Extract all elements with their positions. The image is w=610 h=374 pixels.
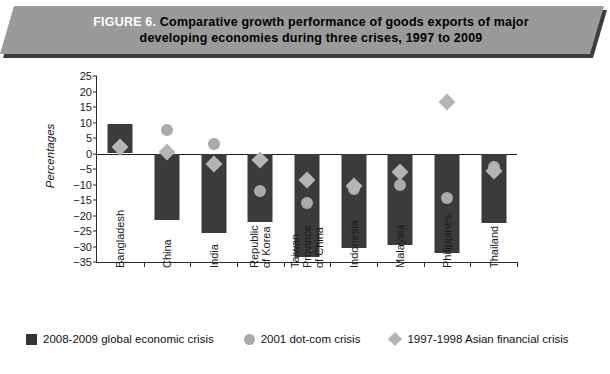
chart-legend: 2008-2009 global economic crisis 2001 do… — [26, 333, 596, 345]
marker-1997-1998-asian-crisis — [438, 94, 455, 111]
x-tick-mark — [517, 262, 518, 267]
legend-item-2: 1997-1998 Asian financial crisis — [390, 333, 568, 345]
legend-label-2: 1997-1998 Asian financial crisis — [407, 333, 568, 345]
y-tick-label: 15 — [80, 101, 92, 113]
marker-2001-dotcom-crisis — [208, 138, 220, 150]
y-tick-label: −35 — [73, 256, 92, 268]
figure-title-banner: FIGURE 6. Comparative growth performance… — [0, 6, 610, 58]
x-axis-category-label: Philippines — [441, 215, 453, 268]
chart-category-column: China — [144, 76, 191, 262]
bar-2008-2009-crisis — [154, 154, 179, 221]
x-tick-mark — [237, 262, 238, 267]
x-tick-mark — [424, 262, 425, 267]
x-tick-mark — [284, 262, 285, 267]
x-tick-mark — [330, 262, 331, 267]
y-tick-label: 25 — [80, 70, 92, 82]
legend-label-0: 2008-2009 global economic crisis — [43, 333, 214, 345]
chart-category-column: Bangladesh — [97, 76, 144, 262]
y-tick-label: −25 — [73, 225, 92, 237]
legend-circle-icon — [244, 334, 255, 345]
x-axis-category-label: Republic of Korea — [248, 225, 272, 268]
banner-text: FIGURE 6. Comparative growth performance… — [93, 14, 529, 46]
y-tick-label: 5 — [86, 132, 92, 144]
y-tick-label: 0 — [86, 148, 92, 160]
x-axis-category-label: Thailand — [488, 226, 500, 268]
chart-category-column: India — [190, 76, 237, 262]
marker-2001-dotcom-crisis — [441, 192, 453, 204]
legend-square-icon — [26, 334, 37, 345]
y-tick-label: −5 — [79, 163, 92, 175]
x-tick-mark — [190, 262, 191, 267]
x-axis-category-label: Malaysia — [394, 225, 406, 268]
banner-text-container: FIGURE 6. Comparative growth performance… — [0, 6, 604, 54]
legend-item-0: 2008-2009 global economic crisis — [26, 333, 214, 345]
marker-2001-dotcom-crisis — [161, 124, 173, 136]
legend-item-1: 2001 dot-com crisis — [244, 333, 361, 345]
x-tick-mark — [470, 262, 471, 267]
x-axis-category-label: Indonesia — [348, 220, 360, 268]
x-axis-category-label: Taiwan Province of China — [289, 225, 325, 268]
legend-label-1: 2001 dot-com crisis — [261, 333, 361, 345]
chart-category-column: Indonesia — [330, 76, 377, 262]
chart-category-column: Taiwan Province of China — [284, 76, 331, 262]
x-axis-category-label: Bangladesh — [114, 210, 126, 268]
figure-title-line1: Comparative growth performance of goods … — [160, 15, 529, 29]
chart-category-column: Republic of Korea — [237, 76, 284, 262]
marker-2001-dotcom-crisis — [254, 185, 266, 197]
chart-category-column: Thailand — [470, 76, 517, 262]
marker-2001-dotcom-crisis — [394, 179, 406, 191]
y-tick-label: −20 — [73, 210, 92, 222]
y-tick-label: 10 — [80, 117, 92, 129]
x-axis-category-label: China — [161, 239, 173, 268]
y-axis-label: Percentages — [44, 124, 56, 189]
chart-container: Percentages 2520151050−5−10−15−20−25−30−… — [0, 60, 610, 374]
chart-category-column: Philippines — [424, 76, 471, 262]
y-tick-label: −10 — [73, 179, 92, 191]
chart-category-column: Malaysia — [377, 76, 424, 262]
plot-area: 2520151050−5−10−15−20−25−30−35 Banglades… — [96, 76, 517, 263]
y-tick-label: −15 — [73, 194, 92, 206]
x-tick-mark — [144, 262, 145, 267]
figure-title-line2: developing economies during three crises… — [140, 31, 483, 45]
x-tick-mark — [377, 262, 378, 267]
y-tick-label: −30 — [73, 241, 92, 253]
x-axis-category-label: India — [208, 244, 220, 268]
marker-2001-dotcom-crisis — [301, 197, 313, 209]
legend-diamond-icon — [388, 332, 402, 346]
source-note-cutoff — [250, 366, 610, 374]
y-tick-label: 20 — [80, 86, 92, 98]
figure-number: FIGURE 6. — [93, 15, 156, 29]
